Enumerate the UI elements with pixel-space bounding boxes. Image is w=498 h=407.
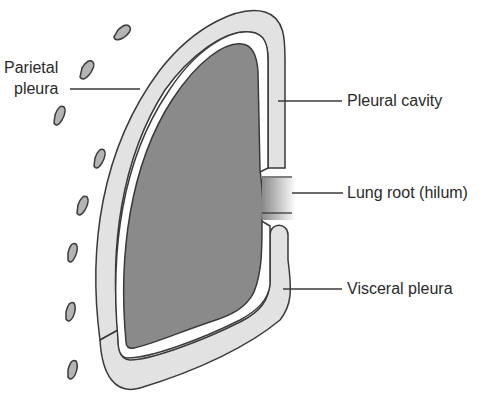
label-visceral-pleura: Visceral pleura — [347, 279, 453, 298]
lung-tissue — [124, 44, 263, 348]
rib-icon — [68, 360, 77, 379]
lung-pleura-diagram: Parietal pleura Pleural cavity Lung root… — [0, 0, 498, 407]
label-parietal-pleura-line1: Parietal — [4, 58, 58, 77]
label-parietal-pleura-line2: pleura — [14, 79, 58, 98]
label-pleural-cavity: Pleural cavity — [347, 91, 442, 110]
diagram-canvas — [0, 0, 498, 407]
rib-icon — [66, 302, 75, 321]
rib-icon — [77, 196, 88, 215]
rib-icon — [114, 25, 130, 40]
rib-icon — [94, 149, 105, 168]
rib-icon — [54, 106, 65, 125]
rib-icon — [80, 61, 94, 79]
hilum-root — [262, 178, 296, 220]
label-lung-root: Lung root (hilum) — [347, 183, 468, 202]
rib-icon — [68, 243, 77, 262]
